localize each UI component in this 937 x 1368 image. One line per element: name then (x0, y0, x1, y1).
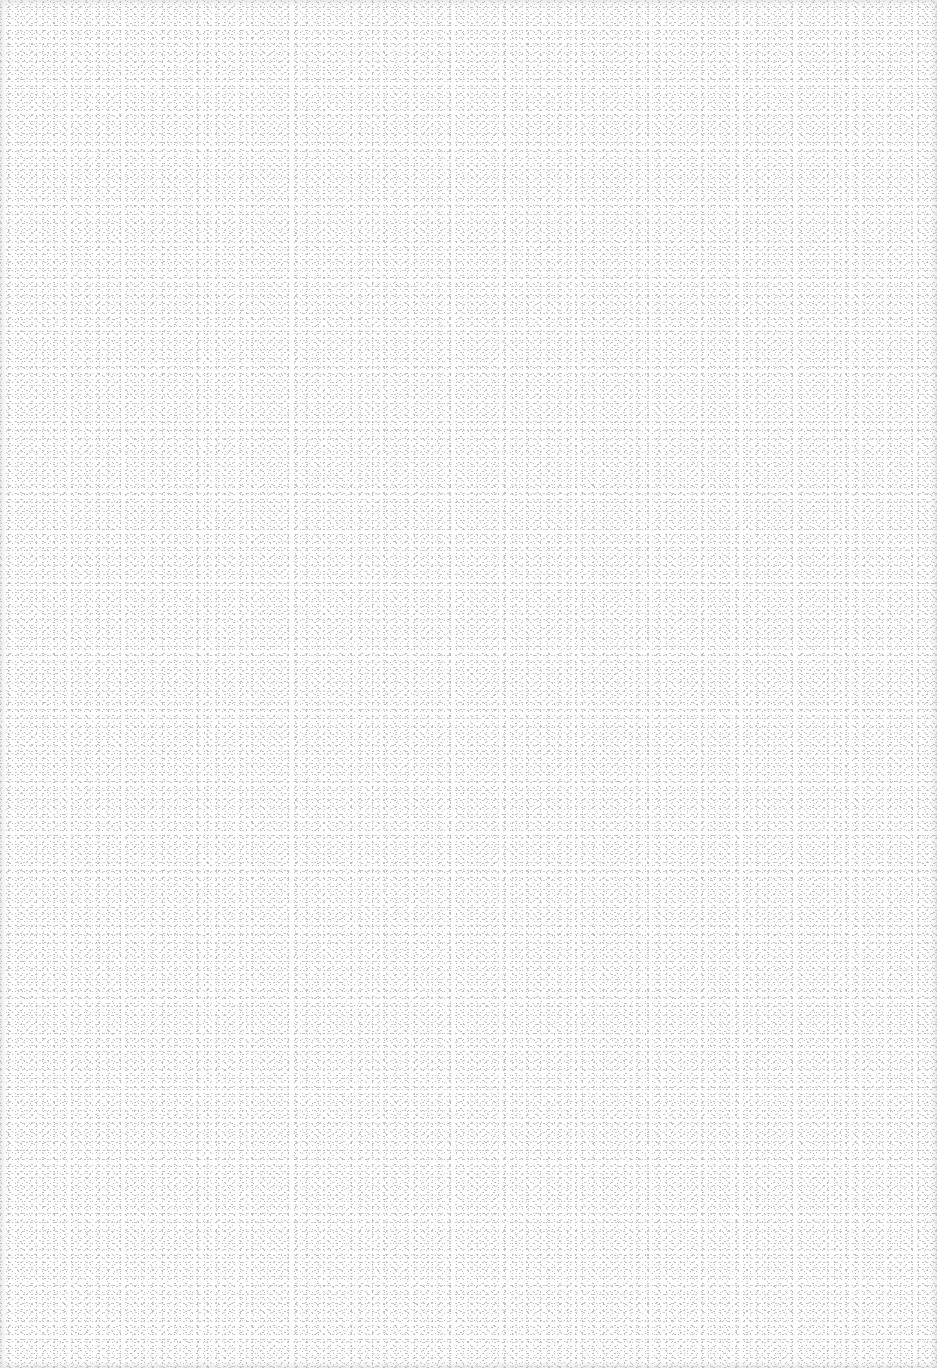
paper-texture-background (0, 0, 937, 1368)
